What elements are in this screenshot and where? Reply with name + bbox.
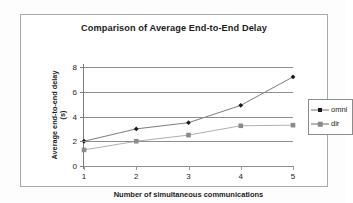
legend-item-omni: omni [311, 103, 350, 117]
y-tick-label: 6 [73, 87, 77, 96]
x-tick-label: 4 [239, 172, 243, 181]
y-axis-label: Average end-to-end delay (s) [51, 62, 67, 168]
series-line-omni [84, 77, 293, 141]
legend-label-dir: dir [331, 119, 339, 129]
y-tick-label: 8 [73, 63, 77, 72]
series-line-dir [84, 125, 293, 150]
x-tick-label: 2 [134, 172, 138, 181]
data-point-dir [238, 123, 243, 128]
x-tick-label: 1 [82, 172, 86, 181]
legend-label-omni: omni [331, 105, 347, 115]
y-axis-label-line2: (s) [59, 62, 67, 168]
y-tick [80, 92, 84, 93]
y-tick [80, 67, 84, 68]
diamond-marker-icon [311, 105, 329, 115]
x-tick [241, 166, 242, 170]
data-point-omni [186, 120, 191, 125]
gridline-y [84, 117, 293, 118]
x-tick-label: 5 [291, 172, 295, 181]
legend-item-dir: dir [311, 117, 350, 131]
chart-title: Comparison of Average End-to-End Delay [21, 23, 327, 33]
x-tick-label: 3 [186, 172, 190, 181]
x-tick [84, 166, 85, 170]
x-tick [136, 166, 137, 170]
x-tick [189, 166, 190, 170]
data-point-omni [134, 126, 139, 131]
x-axis-label: Number of simultaneous communications [84, 190, 293, 199]
y-tick-label: 0 [73, 162, 77, 171]
y-tick-label: 2 [73, 137, 77, 146]
square-marker-icon [311, 119, 329, 129]
x-tick [293, 166, 294, 170]
gridline-y [84, 141, 293, 142]
data-point-omni [291, 75, 296, 80]
data-point-dir [82, 148, 87, 153]
data-point-dir [186, 133, 191, 138]
y-tick-label: 4 [73, 112, 77, 121]
gridline-y [84, 92, 293, 93]
legend: omni dir [308, 99, 353, 135]
figure-frame: Comparison of Average End-to-End Delay A… [20, 14, 328, 187]
plot-area: 0246812345 [84, 67, 293, 166]
y-tick [80, 141, 84, 142]
y-tick [80, 117, 84, 118]
gridline-y [84, 67, 293, 68]
data-point-dir [291, 123, 296, 128]
data-point-omni [238, 103, 243, 108]
